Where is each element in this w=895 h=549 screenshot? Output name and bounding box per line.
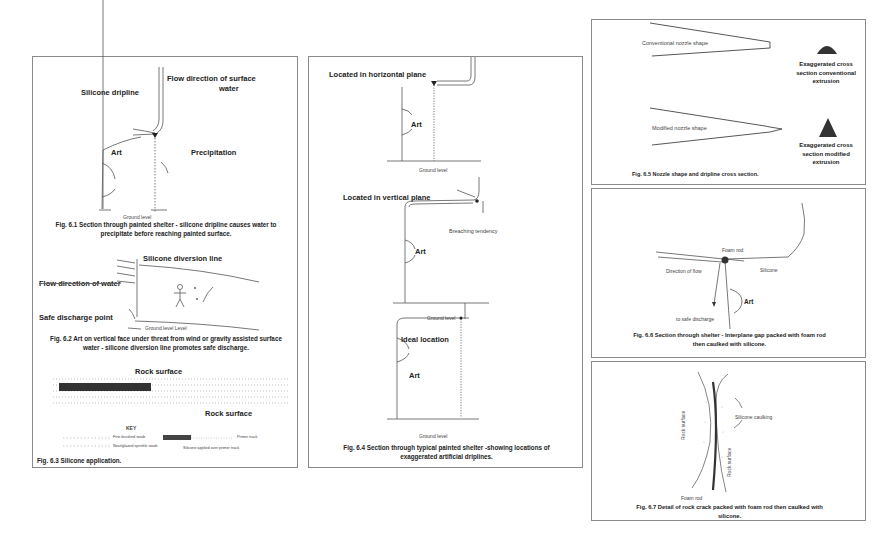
label-key-silicone-applied: Silicone applied over primer track — [183, 446, 239, 450]
panel-fig-6-1-to-6-3: Silicone dripline Flow direction of surf… — [32, 56, 298, 468]
label-horizontal-plane: Located in horizontal plane — [329, 70, 426, 79]
panel-fig-6-6: Foam rod Direction of flow Silicone Art … — [591, 188, 866, 358]
label-rock-surface-right: Rock surface — [726, 448, 732, 477]
fig-6-3-sketch — [33, 57, 299, 469]
label-art-3: Art — [409, 371, 420, 380]
panel-fig-6-4: Located in horizontal plane Art Ground l… — [308, 56, 583, 468]
caption-fig-6-5: Fig. 6.5 Nozzle shape and dripline cross… — [632, 170, 759, 179]
label-conventional-nozzle: Conventional nozzle shape — [642, 40, 708, 46]
label-foam-rod: Foam rod — [722, 247, 743, 253]
label-silicone-caulking: Silicone caulking — [735, 414, 772, 420]
label-to-safe-discharge: to safe discharge — [676, 316, 714, 322]
caption-fig-6-7: Fig. 6.7 Detail of rock crack packed wit… — [592, 503, 867, 520]
label-art-1: Art — [411, 120, 422, 129]
label-direction-of-flow: Direction of flow — [666, 268, 702, 274]
label-key-fine-brushed: Fine brushed swab — [113, 435, 145, 439]
label-key-sprinkle: Neat/glazed sprinkle swab — [113, 444, 157, 448]
label-vertical-plane: Located in vertical plane — [343, 193, 431, 202]
label-key: KEY — [126, 425, 136, 431]
label-art-2: Art — [415, 247, 426, 256]
panel-fig-6-5: Conventional nozzle shape Exaggerated cr… — [591, 19, 866, 185]
label-conventional-cross-section: Exaggerated cross section conventional e… — [787, 60, 865, 86]
label-breaching-tendency: Breaching tendency — [449, 228, 498, 234]
fig-6-4-sketch — [309, 57, 584, 469]
label-key-primer-track: Primer track — [237, 435, 257, 439]
panel-fig-6-7: Silicone caulking Rock surface Rock surf… — [591, 361, 866, 521]
caption-fig-6-6: Fig. 6.6 Section through shelter - Inter… — [592, 331, 867, 349]
label-ground-level-3: Ground level — [419, 433, 447, 439]
label-modified-nozzle: Modified nozzle shape — [652, 125, 707, 131]
label-ground-level-2: Ground level — [427, 315, 455, 321]
label-rock-surface-right: Rock surface — [205, 409, 252, 418]
label-ground-level-1: Ground level — [419, 167, 447, 173]
label-rock-surface-left: Rock surface — [680, 411, 686, 440]
caption-fig-6-3: Fig. 6.3 Silicone application. — [37, 456, 121, 465]
label-ideal-location: Ideal location — [401, 335, 449, 344]
fig-6-7-sketch — [592, 362, 867, 522]
label-foam-rod: Foam rod — [681, 495, 702, 501]
label-modified-cross-section: Exaggerated cross section modified extru… — [787, 141, 865, 167]
label-silicone: Silicone — [760, 267, 778, 273]
label-rock-surface-top: Rock surface — [135, 367, 182, 376]
label-art: Art — [744, 298, 753, 305]
caption-fig-6-4: Fig. 6.4 Section through typical painted… — [309, 443, 584, 461]
